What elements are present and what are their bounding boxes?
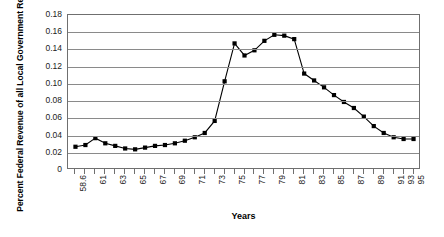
data-point-marker — [143, 146, 147, 150]
data-point-marker — [312, 78, 316, 82]
x-axis-tick — [303, 169, 304, 174]
data-point-marker — [163, 143, 167, 147]
data-series-line — [68, 15, 421, 170]
data-point-marker — [73, 145, 77, 149]
x-axis-tick — [253, 169, 254, 174]
x-axis-tick — [273, 169, 274, 174]
gridline — [68, 32, 419, 33]
y-axis-tick-label: 0 — [34, 164, 62, 174]
data-point-marker — [401, 137, 405, 141]
x-axis-tick-label: 75 — [237, 175, 247, 184]
y-axis-tick-label: 0.02 — [34, 147, 62, 157]
x-axis-tick-label: 89 — [376, 175, 386, 184]
x-axis-tick-label: 79 — [277, 175, 287, 184]
x-axis-tick — [184, 169, 185, 174]
y-axis-title-text: Percent Federal Revenue of all Local Gov… — [15, 0, 26, 212]
x-axis-tick-label: 95 — [416, 175, 426, 184]
x-axis-tick — [94, 169, 95, 174]
data-point-marker — [242, 53, 246, 57]
x-axis-tick-label: 91 — [396, 175, 406, 184]
x-axis-tick-label: 58.6 — [78, 175, 88, 192]
gridline — [68, 153, 419, 154]
gridline — [68, 118, 419, 119]
x-axis-tick — [403, 169, 404, 174]
data-point-marker — [382, 131, 386, 135]
x-axis-tick-label: 83 — [317, 175, 327, 184]
x-axis-tick — [244, 169, 245, 174]
chart-container: Percent Federal Revenue of all Local Gov… — [0, 0, 444, 237]
data-point-marker — [292, 37, 296, 41]
x-axis-tick-marks — [67, 169, 420, 174]
data-point-marker — [332, 93, 336, 97]
x-axis-tick — [353, 169, 354, 174]
y-axis-tick-label: 0.16 — [34, 26, 62, 36]
x-axis-tick — [214, 169, 215, 174]
x-axis-title: Years — [67, 211, 420, 221]
y-axis-tick-label: 0.14 — [34, 43, 62, 53]
data-point-marker — [372, 124, 376, 128]
data-point-marker — [272, 33, 276, 37]
x-axis-tick-label: 61 — [98, 175, 108, 184]
data-point-marker — [223, 79, 227, 83]
y-axis-tick-label: 0.10 — [34, 78, 62, 88]
x-axis-tick — [164, 169, 165, 174]
x-axis-tick — [363, 169, 364, 174]
x-axis-tick-label: 77 — [257, 175, 267, 184]
y-axis-tick-label: 0.04 — [34, 130, 62, 140]
series-line — [75, 35, 413, 150]
data-point-marker — [262, 39, 266, 43]
data-point-marker — [232, 41, 236, 45]
x-axis-tick-labels: 58.6616365676971737577798183858789919395 — [67, 175, 420, 209]
x-axis-tick — [154, 169, 155, 174]
x-axis-tick — [413, 169, 414, 174]
x-axis-tick — [383, 169, 384, 174]
data-point-marker — [302, 71, 306, 75]
x-axis-tick — [333, 169, 334, 174]
data-point-marker — [322, 85, 326, 89]
gridline — [68, 67, 419, 68]
x-axis-tick — [204, 169, 205, 174]
x-axis-tick-label: 81 — [297, 175, 307, 184]
x-axis-tick — [313, 169, 314, 174]
data-point-marker — [411, 137, 415, 141]
x-axis-tick — [224, 169, 225, 174]
y-axis-tick-label: 0.18 — [34, 9, 62, 19]
x-axis-tick-label: 93 — [406, 175, 416, 184]
x-axis-tick — [343, 169, 344, 174]
x-axis-tick — [84, 169, 85, 174]
gridline — [68, 136, 419, 137]
data-point-marker — [133, 147, 137, 151]
y-axis-tick-label: 0.12 — [34, 61, 62, 71]
x-axis-tick-label: 67 — [158, 175, 168, 184]
x-axis-tick — [373, 169, 374, 174]
x-axis-tick — [124, 169, 125, 174]
x-axis-tick — [114, 169, 115, 174]
x-axis-tick — [174, 169, 175, 174]
gridline — [68, 84, 419, 85]
data-point-marker — [173, 141, 177, 145]
x-axis-tick — [393, 169, 394, 174]
x-axis-tick-label: 71 — [197, 175, 207, 184]
x-axis-tick-label: 69 — [177, 175, 187, 184]
x-axis-tick — [194, 169, 195, 174]
data-point-marker — [103, 141, 107, 145]
data-point-marker — [83, 143, 87, 147]
data-point-marker — [183, 139, 187, 143]
x-axis-tick-label: 73 — [217, 175, 227, 184]
plot-area — [67, 14, 420, 169]
x-axis-tick — [283, 169, 284, 174]
x-axis-tick — [144, 169, 145, 174]
x-axis-tick-label: 65 — [138, 175, 148, 184]
data-point-marker — [213, 119, 217, 123]
data-point-marker — [282, 34, 286, 38]
y-axis-tick-label: 0.08 — [34, 95, 62, 105]
data-point-marker — [203, 131, 207, 135]
gridline — [68, 101, 419, 102]
x-axis-tick — [293, 169, 294, 174]
x-axis-tick-label: 63 — [118, 175, 128, 184]
x-axis-tick — [234, 169, 235, 174]
data-point-marker — [153, 144, 157, 148]
data-point-marker — [93, 136, 97, 140]
y-axis-tick-labels: 0.180.160.140.120.100.080.060.040.020 — [34, 0, 62, 237]
x-axis-tick-label: 85 — [336, 175, 346, 184]
